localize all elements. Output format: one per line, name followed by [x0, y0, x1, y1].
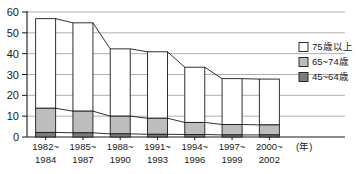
- bar-segment-65-74: [148, 118, 168, 134]
- bar-segment-75-plus: [73, 23, 93, 111]
- bar-segment-75-plus: [36, 19, 56, 109]
- y-axis-tick-label: 60: [7, 6, 19, 18]
- bar-segment-65-74: [185, 122, 205, 134]
- stacked-bar-chart: 01020304050601982~19841985~19871988~1990…: [0, 0, 357, 174]
- x-axis-tick-label-line2: 1993: [147, 154, 168, 165]
- connector-mid-0: [56, 108, 73, 111]
- y-axis-tick-label: 30: [7, 69, 19, 81]
- bar-segment-65-74: [110, 116, 130, 134]
- bar-segment-75-plus: [222, 79, 242, 125]
- y-axis-tick-label: 10: [7, 110, 19, 122]
- bar-segment-45-64: [185, 135, 205, 138]
- bar-segment-45-64: [36, 132, 56, 137]
- x-axis-tick-label-line2: 2002: [259, 154, 280, 165]
- connector-mid-4: [205, 122, 222, 124]
- x-axis-unit-label: (年): [296, 141, 312, 152]
- connector-mid-1: [93, 111, 110, 116]
- x-axis-tick-label-line2: 1999: [222, 154, 243, 165]
- x-axis-tick-label-line1: 1982~: [32, 141, 59, 152]
- connector-top-4: [205, 67, 222, 78]
- x-axis-tick-label-line1: 1988~: [107, 141, 134, 152]
- bar-segment-65-74: [73, 111, 93, 133]
- x-axis-tick-label-line1: 1985~: [70, 141, 97, 152]
- bar-segment-45-64: [222, 135, 242, 137]
- bar-segment-65-74: [36, 108, 56, 132]
- bar-segment-45-64: [73, 133, 93, 137]
- legend-label-2: 45~64歳: [312, 71, 349, 82]
- connector-mid-3: [168, 118, 185, 122]
- y-axis-tick-label: 20: [7, 89, 19, 101]
- y-axis-tick-label: 0: [13, 131, 19, 143]
- x-axis-tick-label-line1: 2000~: [256, 141, 283, 152]
- x-axis-tick-label-line2: 1996: [184, 154, 205, 165]
- legend-label-1: 65~74歳: [312, 56, 349, 67]
- bar-segment-45-64: [110, 134, 130, 137]
- bar-segment-65-74: [259, 125, 279, 135]
- connector-top-3: [168, 52, 185, 67]
- bar-segment-75-plus: [259, 79, 279, 125]
- legend-swatch-1: [299, 58, 308, 67]
- x-axis-tick-label-line2: 1984: [35, 154, 56, 165]
- y-axis-tick-label: 50: [7, 27, 19, 39]
- bar-segment-45-64: [148, 134, 168, 137]
- bar-segment-75-plus: [185, 67, 205, 122]
- chart-container: 01020304050601982~19841985~19871988~1990…: [0, 0, 357, 174]
- bar-segment-75-plus: [148, 52, 168, 118]
- x-axis-tick-label-line2: 1990: [110, 154, 131, 165]
- bar-segment-75-plus: [110, 49, 130, 116]
- connector-top-0: [56, 19, 73, 23]
- connector-top-2: [130, 49, 147, 52]
- legend-label-0: 75歳以上: [312, 41, 353, 52]
- connector-low-1: [93, 133, 110, 134]
- x-axis-tick-label-line1: 1997~: [219, 141, 246, 152]
- bar-segment-65-74: [222, 125, 242, 135]
- legend-swatch-2: [299, 73, 308, 82]
- x-axis-tick-label-line2: 1987: [72, 154, 93, 165]
- y-axis-tick-label: 40: [7, 48, 19, 60]
- x-axis-tick-label-line1: 1994~: [181, 141, 208, 152]
- x-axis-tick-label-line1: 1991~: [144, 141, 171, 152]
- bar-segment-45-64: [259, 135, 279, 137]
- legend-swatch-0: [299, 43, 308, 52]
- connector-top-1: [93, 23, 110, 49]
